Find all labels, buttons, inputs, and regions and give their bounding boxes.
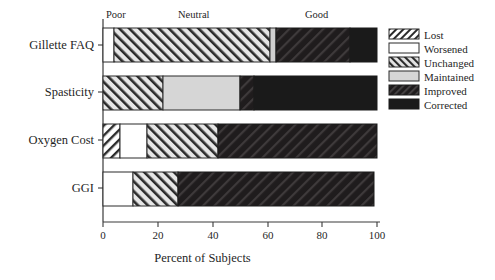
legend-label-worsened: Worsened	[424, 44, 468, 55]
x-axis-ticks	[103, 222, 377, 227]
legend-label-improved: Improved	[424, 86, 467, 97]
x-tick-label-20: 20	[144, 230, 172, 241]
x-tick-label-60: 60	[254, 230, 282, 241]
y-axis-label-ggi: GGI	[0, 182, 94, 195]
bar-ggi	[103, 172, 374, 206]
legend-label-maintained: Maintained	[424, 72, 474, 83]
y-axis-label-spasticity: Spasticity	[0, 86, 94, 99]
x-tick-label-40: 40	[199, 230, 227, 241]
segment-unchanged	[103, 76, 163, 110]
legend-swatches	[389, 29, 419, 109]
segment-worsened	[103, 172, 133, 206]
segment-worsened	[103, 28, 114, 62]
segment-unchanged	[133, 172, 178, 206]
segment-maintained	[163, 76, 240, 110]
segment-lost	[103, 124, 120, 158]
x-tick-label-100: 100	[363, 230, 391, 241]
annotation-neutral: Neutral	[178, 10, 210, 21]
bar-oxygen-cost	[103, 124, 377, 158]
x-axis-title: Percent of Subjects	[0, 252, 450, 265]
segment-worsened	[120, 124, 147, 158]
legend-swatch-corrected	[389, 99, 419, 109]
stacked-bar-chart: Gillette FAQ Spasticity Oxygen Cost GGI …	[0, 0, 495, 280]
bar-spasticity	[103, 76, 377, 110]
segment-improved	[178, 172, 374, 206]
segment-corrected	[254, 76, 377, 110]
segment-corrected	[350, 28, 377, 62]
legend-label-corrected: Corrected	[424, 100, 467, 111]
legend-swatch-lost	[389, 29, 419, 39]
legend-swatch-improved	[389, 85, 419, 95]
legend-label-lost: Lost	[424, 30, 444, 41]
y-axis-label-gillette-faq: Gillette FAQ	[0, 39, 94, 52]
segment-improved	[276, 28, 350, 62]
segment-unchanged	[114, 28, 270, 62]
y-axis-label-oxygen-cost: Oxygen Cost	[0, 134, 94, 147]
legend-swatch-maintained	[389, 71, 419, 81]
annotation-good: Good	[305, 10, 328, 21]
legend-label-unchanged: Unchanged	[424, 58, 474, 69]
legend-swatch-unchanged	[389, 57, 419, 67]
legend-swatch-worsened	[389, 43, 419, 53]
segment-improved	[218, 124, 377, 158]
x-tick-label-0: 0	[89, 230, 117, 241]
bar-gillette-faq	[103, 28, 377, 62]
segment-unchanged	[147, 124, 218, 158]
segment-maintained	[270, 28, 276, 62]
annotation-poor: Poor	[106, 10, 126, 21]
x-tick-label-80: 80	[308, 230, 336, 241]
segment-improved	[240, 76, 254, 110]
y-axis-ticks	[98, 45, 103, 188]
